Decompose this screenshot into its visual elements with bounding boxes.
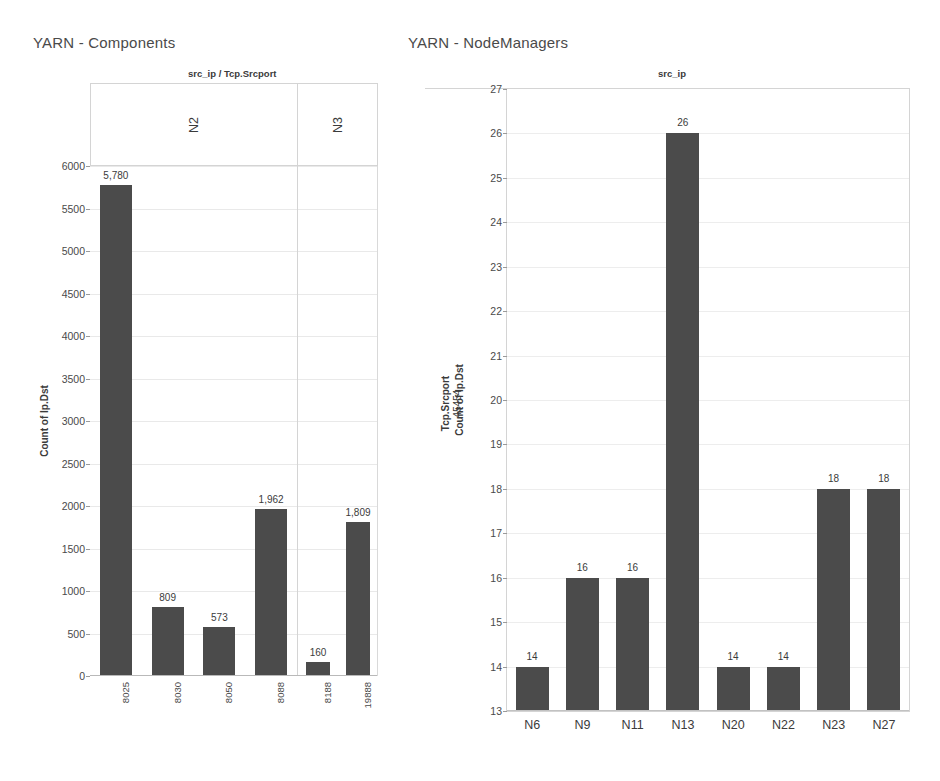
yaxis-tick-label: 19	[490, 438, 502, 450]
gridline	[90, 166, 377, 167]
xaxis-tick-label: N22	[772, 718, 795, 732]
bar[interactable]	[100, 185, 132, 676]
bar-value-label: 18	[854, 473, 914, 484]
chart-right-plot-area: Count of Ip.Dst 131415161718192021222324…	[506, 89, 910, 712]
yaxis-tick-label: 4500	[62, 288, 85, 300]
bar-value-label: 573	[189, 612, 249, 623]
gridline	[90, 421, 377, 422]
yaxis-tick-label: 20	[490, 394, 502, 406]
panel-header-n3: N3	[297, 84, 378, 165]
bar-value-label: 1,809	[328, 507, 388, 518]
bar[interactable]	[152, 607, 184, 676]
gridline	[507, 267, 909, 268]
chart-right-yaxis-title: Count of Ip.Dst	[454, 364, 465, 436]
bar-value-label: 809	[138, 592, 198, 603]
gridline	[507, 133, 909, 134]
chart-left-column-header-title: src_ip / Tcp.Srcport	[188, 68, 277, 79]
bar[interactable]	[616, 578, 649, 711]
bar[interactable]	[666, 133, 699, 711]
dashboard-canvas: YARN - Components src_ip / Tcp.Srcport N…	[0, 0, 940, 781]
yaxis-tick-label: 1000	[62, 585, 85, 597]
gridline	[90, 336, 377, 337]
yaxis-tick-label: 24	[490, 216, 502, 228]
gridline	[90, 379, 377, 380]
yaxis-tick-label: 26	[490, 127, 502, 139]
xaxis-tick-label: N11	[622, 718, 644, 732]
xaxis-tick-label: N13	[671, 718, 694, 732]
xaxis-tick-label: N20	[722, 718, 745, 732]
gridline	[90, 251, 377, 252]
yaxis-tick-label: 500	[67, 628, 85, 640]
chart-left-panel-header-band: N2 N3	[90, 83, 378, 166]
bar[interactable]	[817, 489, 850, 711]
bar-value-label: 160	[288, 647, 348, 658]
yaxis-tick-label: 6000	[62, 160, 85, 172]
chart-yarn-nodemanagers: YARN - NodeManagers src_ip Tcp.Srcport 4…	[400, 0, 940, 781]
bar[interactable]	[566, 578, 599, 711]
bar[interactable]	[516, 667, 549, 711]
gridline	[507, 222, 909, 223]
panel-header-n2-label: N2	[187, 117, 201, 133]
bar[interactable]	[203, 627, 235, 676]
chart-left-plot-area: Count of Ip.Dst 050010001500200025003000…	[90, 166, 378, 676]
yaxis-tick-label: 16	[490, 572, 502, 584]
chart-yarn-components: YARN - Components src_ip / Tcp.Srcport N…	[0, 0, 400, 781]
yaxis-tick-label: 23	[490, 261, 502, 273]
chart-left-title: YARN - Components	[33, 34, 175, 51]
yaxis-tick-label: 0	[79, 670, 85, 682]
bar-value-label: 5,780	[86, 170, 146, 181]
bar-value-label: 1,962	[241, 494, 301, 505]
gridline	[507, 400, 909, 401]
yaxis-tick-label: 21	[490, 350, 502, 362]
gridline	[507, 178, 909, 179]
bar[interactable]	[255, 509, 287, 676]
gridline	[90, 294, 377, 295]
chart-left-yaxis-title: Count of Ip.Dst	[39, 385, 50, 457]
yaxis-tick-label: 15	[490, 616, 502, 628]
chart-right-row-header-title: Tcp.Srcport	[440, 376, 451, 431]
xaxis-tick-label: N6	[524, 718, 540, 732]
yaxis-tick-label: 22	[490, 305, 502, 317]
bar-value-label: 16	[603, 562, 663, 573]
yaxis-tick-label: 17	[490, 527, 502, 539]
bar-value-label: 26	[653, 117, 713, 128]
chart-right-axis-baseline	[507, 710, 909, 711]
bar-value-label: 14	[502, 651, 562, 662]
gridline	[90, 209, 377, 210]
yaxis-tick-label: 18	[490, 483, 502, 495]
yaxis-tick-label: 3500	[62, 373, 85, 385]
yaxis-tick-label: 13	[490, 705, 502, 717]
yaxis-tick-label: 5500	[62, 203, 85, 215]
xaxis-tick-label: N23	[822, 718, 845, 732]
xaxis-tick-label: 19888	[362, 682, 373, 708]
chart-left-axis-baseline	[90, 675, 377, 676]
yaxis-tick-label: 25	[490, 172, 502, 184]
bar[interactable]	[767, 667, 800, 711]
yaxis-tick-label: 4000	[62, 330, 85, 342]
bar[interactable]	[717, 667, 750, 711]
chart-right-column-header-title: src_ip	[658, 68, 686, 79]
xaxis-tick-label: 8188	[322, 682, 333, 703]
yaxis-tick-label: 14	[490, 661, 502, 673]
xaxis-tick-label: 8025	[120, 682, 131, 703]
panel-header-n2: N2	[90, 84, 297, 165]
yaxis-tick-label: 5000	[62, 245, 85, 257]
xaxis-tick-label: N27	[872, 718, 895, 732]
gridline	[507, 311, 909, 312]
bar[interactable]	[867, 489, 900, 711]
bar-value-label: 14	[753, 651, 813, 662]
chart-right-title: YARN - NodeManagers	[408, 34, 568, 51]
yaxis-tick-label: 3000	[62, 415, 85, 427]
yaxis-tick-label: 27	[490, 83, 502, 95]
xaxis-tick-label: 8088	[275, 682, 286, 703]
bar[interactable]	[306, 662, 331, 676]
chart-left-panel-divider	[297, 166, 298, 676]
bar[interactable]	[346, 522, 371, 676]
gridline	[507, 444, 909, 445]
xaxis-tick-label: 8030	[172, 682, 183, 703]
gridline	[507, 356, 909, 357]
panel-header-n3-label: N3	[331, 117, 345, 133]
xaxis-tick-label: N9	[574, 718, 590, 732]
gridline	[90, 549, 377, 550]
yaxis-tick-label: 2500	[62, 458, 85, 470]
